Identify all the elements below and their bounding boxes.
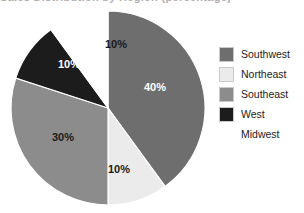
legend-color-swatch (219, 127, 234, 142)
legend-color-swatch (219, 107, 234, 122)
pie-slice-value-label: 40% (144, 81, 166, 93)
legend-item-label: Southwest (241, 49, 290, 60)
legend-item[interactable]: Southwest (219, 45, 304, 64)
pie-svg: 40%10%30%10%10% (0, 0, 214, 213)
legend-item[interactable]: Northeast (219, 65, 304, 84)
legend-color-swatch (219, 47, 234, 62)
pie-plot-area: 40%10%30%10%10% (0, 0, 214, 213)
legend-item-label: West (241, 109, 265, 120)
legend-item[interactable]: Southeast (219, 85, 304, 104)
legend-color-swatch (219, 67, 234, 82)
pie-chart-figure: Sales Distribution by Region (percentage… (0, 0, 304, 213)
legend-item-label: Southeast (241, 89, 288, 100)
pie-slice-value-label: 10% (105, 38, 127, 50)
legend-item-label: Northeast (241, 69, 287, 80)
legend-color-swatch (219, 87, 234, 102)
pie-slice-value-label: 30% (52, 131, 74, 143)
chart-legend: SouthwestNortheastSoutheastWestMidwest (219, 45, 304, 145)
pie-slice-value-label: 10% (108, 163, 130, 175)
legend-item[interactable]: West (219, 105, 304, 124)
pie-slice-value-label: 10% (58, 58, 80, 70)
legend-item[interactable]: Midwest (219, 125, 304, 144)
legend-item-label: Midwest (241, 129, 280, 140)
